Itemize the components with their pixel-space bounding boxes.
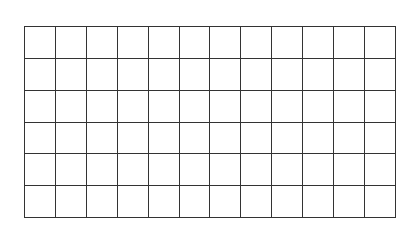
grid-cell bbox=[334, 123, 365, 155]
grid-cell bbox=[56, 186, 87, 218]
grid-cell bbox=[241, 154, 272, 186]
grid-cell bbox=[118, 27, 149, 59]
grid-cell bbox=[149, 27, 180, 59]
grid-cell bbox=[149, 186, 180, 218]
grid-cell bbox=[241, 186, 272, 218]
grid-cell bbox=[118, 59, 149, 91]
empty-grid bbox=[24, 26, 396, 218]
grid-cell bbox=[272, 186, 303, 218]
grid-cell bbox=[118, 154, 149, 186]
grid-cell bbox=[272, 123, 303, 155]
grid-cell bbox=[118, 123, 149, 155]
grid-cell bbox=[272, 59, 303, 91]
grid-cell bbox=[241, 27, 272, 59]
grid-cell bbox=[25, 59, 56, 91]
grid-cell bbox=[180, 123, 211, 155]
grid-cell bbox=[25, 186, 56, 218]
grid-cell bbox=[303, 59, 334, 91]
grid-cell bbox=[56, 27, 87, 59]
grid-cell bbox=[365, 123, 396, 155]
grid-cell bbox=[303, 91, 334, 123]
grid-cell bbox=[118, 91, 149, 123]
grid-cell bbox=[272, 91, 303, 123]
grid-cell bbox=[180, 59, 211, 91]
grid-cell bbox=[56, 154, 87, 186]
grid-cell bbox=[87, 59, 118, 91]
grid-cell bbox=[303, 123, 334, 155]
grid-cell bbox=[210, 91, 241, 123]
grid-cell bbox=[210, 27, 241, 59]
grid-cell bbox=[180, 91, 211, 123]
grid-cell bbox=[241, 91, 272, 123]
grid-cell bbox=[365, 154, 396, 186]
grid-cell bbox=[87, 91, 118, 123]
grid-cell bbox=[180, 27, 211, 59]
grid-cell bbox=[303, 186, 334, 218]
grid-cell bbox=[210, 154, 241, 186]
grid-cell bbox=[241, 123, 272, 155]
grid-cell bbox=[334, 154, 365, 186]
grid-cell bbox=[303, 27, 334, 59]
grid-cell bbox=[334, 186, 365, 218]
grid-cell bbox=[87, 123, 118, 155]
grid-cell bbox=[334, 59, 365, 91]
grid-cell bbox=[180, 154, 211, 186]
grid-cell bbox=[272, 154, 303, 186]
grid-cell bbox=[149, 154, 180, 186]
grid-cell bbox=[56, 123, 87, 155]
grid-cell bbox=[87, 186, 118, 218]
grid-cell bbox=[241, 59, 272, 91]
grid-cell bbox=[365, 27, 396, 59]
grid-cell bbox=[56, 59, 87, 91]
grid-cell bbox=[25, 123, 56, 155]
grid-cell bbox=[365, 186, 396, 218]
grid-cell bbox=[272, 27, 303, 59]
grid-cell bbox=[118, 186, 149, 218]
grid-cell bbox=[365, 59, 396, 91]
grid-cell bbox=[180, 186, 211, 218]
grid-cell bbox=[25, 91, 56, 123]
grid-cell bbox=[25, 27, 56, 59]
grid-cell bbox=[210, 186, 241, 218]
grid-cell bbox=[365, 91, 396, 123]
grid-cell bbox=[210, 123, 241, 155]
grid-cell bbox=[149, 91, 180, 123]
grid-cell bbox=[334, 27, 365, 59]
grid-cell bbox=[25, 154, 56, 186]
grid-cell bbox=[87, 27, 118, 59]
grid-cell bbox=[149, 123, 180, 155]
grid-cell bbox=[210, 59, 241, 91]
grid-cell bbox=[334, 91, 365, 123]
grid-cell bbox=[56, 91, 87, 123]
grid-cell bbox=[303, 154, 334, 186]
grid-cell bbox=[149, 59, 180, 91]
grid-cell bbox=[87, 154, 118, 186]
